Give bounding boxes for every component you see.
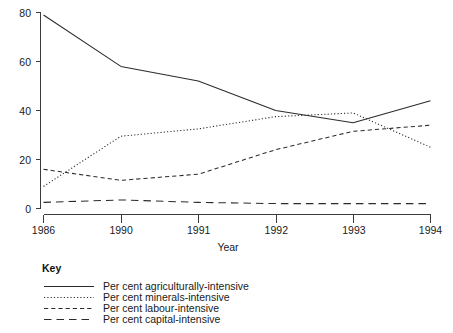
x-tick-label: 1994 <box>419 224 443 236</box>
x-tick-1994: 1994 <box>419 215 443 237</box>
key-entry-label: Per cent capital-intensive <box>103 313 220 325</box>
x-tick-label: 1992 <box>265 224 289 236</box>
x-tick-label: 1993 <box>342 224 366 236</box>
y-tick-label: 0 <box>25 203 31 215</box>
y-axis: 80 60 40 20 0 <box>19 7 40 215</box>
x-tick-1993: 1993 <box>342 215 366 237</box>
y-tick-60: 60 <box>19 56 40 68</box>
series-line-minerals-intensive <box>44 113 431 187</box>
y-tick-20: 20 <box>19 154 40 166</box>
x-axis-title: Year <box>217 241 239 253</box>
y-tick-label: 20 <box>19 154 31 166</box>
line-chart-svg: 80 60 40 20 0 198 <box>0 0 453 333</box>
x-tick-label: 1990 <box>109 224 133 236</box>
plot-series-group <box>44 15 431 204</box>
y-tick-80: 80 <box>19 7 40 19</box>
chart-figure: 80 60 40 20 0 198 <box>0 0 453 333</box>
chart-key: Key Per cent agriculturally-intensive Pe… <box>42 262 249 325</box>
x-tick-1990: 1990 <box>109 215 133 237</box>
x-tick-label: 1986 <box>32 224 56 236</box>
key-heading: Key <box>42 262 61 274</box>
y-tick-label: 60 <box>19 56 31 68</box>
y-tick-label: 40 <box>19 105 31 117</box>
x-axis: 1986 1990 1991 1992 1993 1994 <box>32 215 443 254</box>
x-tick-1986: 1986 <box>32 215 56 237</box>
x-tick-1992: 1992 <box>265 215 289 237</box>
y-tick-0: 0 <box>25 203 40 215</box>
y-tick-40: 40 <box>19 105 40 117</box>
series-line-capital-intensive <box>44 200 431 204</box>
series-line-agriculturally-intensive <box>44 15 431 123</box>
key-entry-capital-intensive: Per cent capital-intensive <box>44 313 220 325</box>
series-line-labour-intensive <box>44 125 431 180</box>
x-tick-1991: 1991 <box>187 215 211 237</box>
x-tick-label: 1991 <box>187 224 211 236</box>
y-tick-label: 80 <box>19 7 31 19</box>
